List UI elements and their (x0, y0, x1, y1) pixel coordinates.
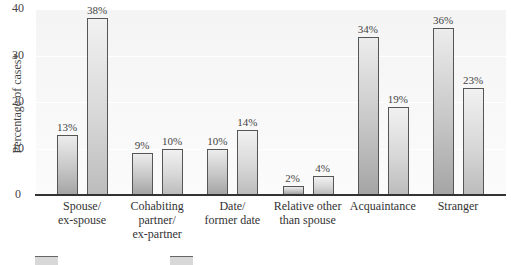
bar-value-label: 38% (82, 4, 112, 16)
y-tick-label: 40 (8, 1, 28, 16)
legend-swatch-series-1 (35, 256, 58, 265)
bar-value-label: 13% (52, 121, 82, 133)
category-label: Stranger (413, 199, 503, 213)
bar-series-1 (207, 149, 228, 196)
bar-series-2 (313, 176, 334, 195)
bar-series-2 (162, 149, 183, 196)
bar-value-label: 14% (232, 116, 262, 128)
bar-value-label: 9% (127, 139, 157, 151)
bar-value-label: 36% (428, 14, 458, 26)
bar-series-1 (57, 135, 78, 195)
bar-value-label: 10% (157, 135, 187, 147)
bar-series-1 (132, 153, 153, 195)
bar-value-label: 10% (202, 135, 232, 147)
y-axis-label: Percentage of cases* (10, 39, 25, 169)
bar-series-2 (388, 107, 409, 195)
bar-series-2 (237, 130, 258, 195)
bar-series-1 (358, 37, 379, 195)
bar-value-label: 4% (308, 162, 338, 174)
bar-value-label: 2% (278, 172, 308, 184)
bar-value-label: 23% (458, 74, 488, 86)
bar-series-2 (87, 18, 108, 195)
y-tick-label: 0 (8, 187, 28, 202)
legend-swatch-series-2 (170, 256, 193, 265)
bar-value-label: 19% (383, 93, 413, 105)
x-axis-line (35, 194, 506, 196)
bar-series-1 (433, 28, 454, 195)
bar-series-2 (463, 88, 484, 195)
bar-value-label: 34% (353, 23, 383, 35)
